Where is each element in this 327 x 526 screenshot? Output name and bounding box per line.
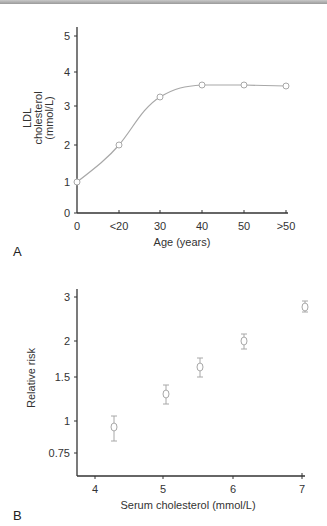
x-axis-label-b: Serum cholesterol (mmol/L) (120, 499, 255, 511)
y-tick-label: 0 (64, 207, 70, 219)
figure: 0 1 2 3 4 5 0 <20 30 40 50 >50 Age (year… (0, 0, 327, 526)
ldl-markers (74, 82, 289, 185)
y-tick-label: 3 (64, 100, 70, 112)
y-tick-label: 4 (64, 66, 70, 78)
y-tick-label: 1.5 (55, 371, 70, 383)
x-tick-label: 5 (160, 483, 166, 495)
ldl-curve (77, 85, 286, 182)
x-tick-label: 6 (230, 483, 236, 495)
y-tick-label: 0.75 (49, 447, 70, 459)
x-tick-label: 30 (154, 220, 166, 232)
chart-b: 3 2 1.5 1 0.75 4 5 6 7 Serum cholesterol… (13, 289, 308, 523)
panel-label-b: B (13, 508, 22, 523)
x-tick-label: >50 (277, 220, 296, 232)
y-tick-label: 2 (64, 335, 70, 347)
x-tick-label: 7 (299, 483, 305, 495)
risk-points (111, 301, 308, 441)
y-tick-label: 1 (64, 415, 70, 427)
data-point (197, 358, 203, 377)
x-tick-label: 50 (238, 220, 250, 232)
y-tick-label: 1 (64, 176, 70, 188)
x-tick-labels-b: 4 5 6 7 (92, 483, 305, 495)
x-tick-label: 0 (74, 220, 80, 232)
data-point (302, 301, 308, 312)
x-tick-label: 4 (92, 483, 98, 495)
y-tick-label: 2 (64, 139, 70, 151)
svg-text:(mmol/L): (mmol/L) (43, 96, 55, 139)
x-axis-label-a: Age (years) (154, 236, 211, 248)
x-tick-labels-a: 0 <20 30 40 50 >50 (74, 220, 295, 232)
y-tick-labels-a: 0 1 2 3 4 5 (64, 30, 70, 219)
x-tick-label: 40 (196, 220, 208, 232)
panel-label-a: A (13, 244, 22, 259)
y-axis-label-b: Relative risk (25, 348, 37, 408)
chart-a: 0 1 2 3 4 5 0 <20 30 40 50 >50 Age (year… (13, 27, 295, 259)
y-axis-label-a: LDL cholesterol (mmol/L) (21, 91, 55, 144)
data-point (111, 416, 117, 441)
y-tick-label: 5 (64, 30, 70, 42)
y-tick-label: 3 (64, 291, 70, 303)
x-tick-label: <20 (110, 220, 129, 232)
data-point (163, 385, 169, 404)
y-tick-labels-b: 3 2 1.5 1 0.75 (49, 291, 70, 459)
data-point (241, 334, 247, 349)
